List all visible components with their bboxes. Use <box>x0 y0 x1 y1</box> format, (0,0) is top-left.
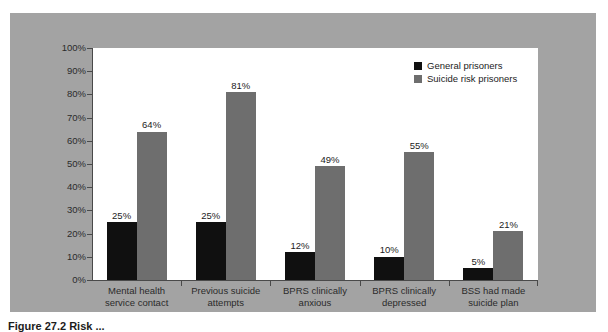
bar-value-label: 55% <box>410 141 429 151</box>
chart-panel: 100%90%80%70%60%50%40%30%20%10%0% 25%64%… <box>10 13 596 312</box>
legend-label-general: General prisoners <box>427 61 503 71</box>
legend-swatch-general-icon <box>414 62 422 70</box>
category-label-line: service contact <box>92 297 181 309</box>
category-label-line: BPRS clinically <box>360 285 449 297</box>
y-axis-tick-labels: 100%90%80%70%60%50%40%30%20%10%0% <box>16 48 86 281</box>
bar-risk: 21% <box>493 231 523 280</box>
y-axis-tick <box>87 280 92 281</box>
bar-risk: 81% <box>226 92 256 280</box>
y-axis-tick <box>87 71 92 72</box>
bar-value-label: 25% <box>201 211 220 221</box>
category-label-line: suicide plan <box>449 297 538 309</box>
chart-legend: General prisoners Suicide risk prisoners <box>410 58 521 88</box>
figure-container: 100%90%80%70%60%50%40%30%20%10%0% 25%64%… <box>0 0 608 332</box>
category-label: BPRS clinicallydepressed <box>360 285 449 309</box>
y-axis-tick-label: 70% <box>16 113 86 123</box>
bar-value-label: 10% <box>380 245 399 255</box>
category-label-line: BSS had made <box>449 285 538 297</box>
y-axis-tick-label: 10% <box>16 252 86 262</box>
bar-general: 5% <box>463 268 493 280</box>
y-axis-tick <box>87 118 92 119</box>
y-axis-tick-label: 50% <box>16 159 86 169</box>
x-axis-line <box>92 280 538 281</box>
bar-risk: 55% <box>404 152 434 280</box>
bar-general: 12% <box>285 252 315 280</box>
bar-value-label: 81% <box>231 81 250 91</box>
bar-general: 10% <box>374 257 404 280</box>
y-axis-tick <box>87 141 92 142</box>
category-label-line: depressed <box>360 297 449 309</box>
bar-risk: 64% <box>137 132 167 280</box>
category-label-line: Mental health <box>92 285 181 297</box>
category-label: Mental healthservice contact <box>92 285 181 309</box>
y-axis-tick <box>87 187 92 188</box>
y-axis-tick-label: 0% <box>16 275 86 285</box>
bar-value-label: 12% <box>290 241 309 251</box>
category-label-line: Previous suicide <box>181 285 270 297</box>
category-label-line: BPRS clinically <box>270 285 359 297</box>
y-axis-tick-label: 90% <box>16 66 86 76</box>
bar-general: 25% <box>107 222 137 280</box>
legend-label-risk: Suicide risk prisoners <box>427 74 517 84</box>
bar-group: 25%81% <box>196 48 256 280</box>
y-axis-tick <box>87 48 92 49</box>
legend-swatch-risk-icon <box>414 75 422 83</box>
bar-risk: 49% <box>315 166 345 280</box>
bar-value-label: 49% <box>320 155 339 165</box>
y-axis-line <box>92 48 93 281</box>
y-axis-tick <box>87 210 92 211</box>
bar-group: 12%49% <box>285 48 345 280</box>
y-axis-tick-label: 30% <box>16 206 86 216</box>
y-axis-tick-label: 100% <box>16 43 86 53</box>
y-axis-tick-label: 60% <box>16 136 86 146</box>
category-label: Previous suicideattempts <box>181 285 270 309</box>
bar-value-label: 21% <box>499 220 518 230</box>
bar-group: 25%64% <box>107 48 167 280</box>
category-label-line: anxious <box>270 297 359 309</box>
y-axis-tick <box>87 94 92 95</box>
legend-item-suicide-risk-prisoners: Suicide risk prisoners <box>414 73 517 85</box>
bar-general: 25% <box>196 222 226 280</box>
y-axis-tick-label: 80% <box>16 90 86 100</box>
bar-value-label: 25% <box>112 211 131 221</box>
y-axis-tick <box>87 234 92 235</box>
y-axis-tick <box>87 257 92 258</box>
category-label: BPRS clinicallyanxious <box>270 285 359 309</box>
y-axis-tick-label: 40% <box>16 182 86 192</box>
figure-caption: Figure 27.2 Risk ... <box>8 320 105 332</box>
bar-value-label: 64% <box>142 120 161 130</box>
y-axis-tick <box>87 164 92 165</box>
legend-item-general-prisoners: General prisoners <box>414 60 517 72</box>
y-axis-tick-label: 20% <box>16 229 86 239</box>
category-label: BSS had madesuicide plan <box>449 285 538 309</box>
category-label-line: attempts <box>181 297 270 309</box>
bar-value-label: 5% <box>472 257 486 267</box>
